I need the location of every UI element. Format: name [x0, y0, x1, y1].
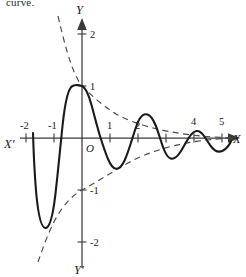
y-tick-label--1: -1	[90, 185, 99, 196]
figure-container: curve.	[0, 0, 246, 277]
x-tick-label--2: -2	[20, 120, 29, 131]
damped-oscillation-curve	[33, 85, 231, 228]
x-tick-label-5: 5	[219, 116, 224, 127]
x-negative-axis-label: X'	[3, 137, 15, 151]
x-tick-label-1: 1	[107, 120, 112, 131]
y-tick-label--2: -2	[90, 237, 99, 248]
y-tick-label-1: 1	[90, 81, 95, 92]
x-tick-label--1: -1	[48, 120, 57, 131]
x-tick-label-2: 2	[135, 120, 140, 131]
y-axis-arrowhead	[77, 18, 87, 30]
x-positive-axis-label: X	[232, 132, 242, 146]
y-tick-label-2: 2	[90, 29, 95, 40]
y-positive-axis-label: Y	[76, 3, 85, 17]
damped-oscillation-chart: X' X Y Y' O -2 -1 1 2 4 5 2 1 -1 -2	[0, 0, 246, 277]
lower-envelope-curve	[38, 138, 232, 262]
y-negative-axis-label: Y'	[74, 263, 84, 277]
x-tick-label-4: 4	[191, 116, 197, 127]
origin-label: O	[86, 142, 94, 154]
